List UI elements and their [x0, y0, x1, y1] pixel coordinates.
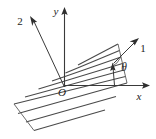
band-edge-left: [14, 104, 34, 131]
y-axis: [61, 7, 67, 86]
hatch-line: [26, 97, 116, 123]
x-axis-label: x: [136, 90, 142, 102]
axis-2-arrowhead: [30, 16, 37, 26]
axis-2-label: 2: [17, 15, 23, 27]
theta-label: θ: [121, 61, 127, 73]
hatch-line: [34, 110, 105, 131]
hatch-line: [78, 44, 118, 65]
y-axis-label: y: [53, 5, 59, 17]
origin-label: O: [58, 86, 66, 98]
axis-1-arrowhead: [130, 38, 139, 46]
coordinate-diagram: x y 1 2 O θ: [0, 0, 156, 139]
axis-2-line: [34, 21, 65, 87]
material-axis-2: [30, 16, 64, 86]
hatch-line: [25, 70, 124, 97]
axis-1-label: 1: [140, 42, 146, 54]
material-axis-1: [114, 38, 140, 64]
figure-container: x y 1 2 O θ: [0, 0, 156, 139]
hatch-line: [14, 77, 126, 105]
hatched-fiber-band: [14, 44, 127, 131]
